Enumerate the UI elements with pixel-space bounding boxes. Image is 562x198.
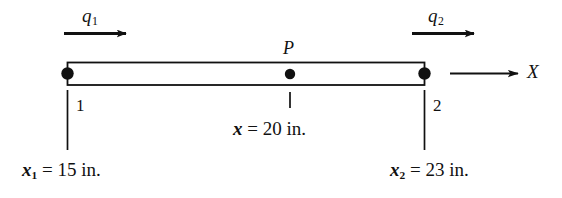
dimension-x2-equals: = — [410, 159, 421, 180]
node-1-dot — [61, 67, 73, 79]
dimension-x1-equals: = — [42, 159, 53, 180]
dimension-x1-label: x1 = 15 in. — [22, 160, 101, 182]
q2-label: q2 — [428, 6, 444, 28]
dimension-x2-unit: in. — [449, 159, 469, 180]
node-2-dot — [418, 67, 430, 79]
dimension-x1-value: 15 — [57, 159, 76, 180]
x-axis-label: X — [527, 62, 539, 81]
dimension-x2-value: 23 — [425, 159, 444, 180]
dimension-x-label: x = 20 in. — [233, 119, 306, 138]
dimension-x-unit: in. — [286, 118, 306, 139]
dimension-x-value: 20 — [263, 118, 282, 139]
q1-symbol: q — [82, 5, 92, 26]
node-2-label: 2 — [433, 97, 442, 114]
q2-symbol: q — [428, 5, 438, 26]
q2-subscript: 2 — [438, 15, 444, 28]
dimension-x2-label: x2 = 23 in. — [390, 160, 469, 182]
dimension-x1-unit: in. — [81, 159, 101, 180]
dimension-x-equals: = — [247, 118, 258, 139]
point-p-label: P — [283, 39, 294, 57]
dimension-x2-subscript: 2 — [400, 169, 406, 181]
dimension-x2-variable: x2 — [390, 159, 405, 180]
engineering-figure: q1 q2 P X 1 2 x = 20 in. x1 = 15 in. x2 … — [0, 0, 562, 198]
bar-element-outline — [68, 63, 425, 86]
q1-label: q1 — [82, 6, 98, 28]
q1-subscript: 1 — [92, 15, 98, 28]
node-1-label: 1 — [76, 97, 85, 114]
dimension-x-variable: x — [233, 118, 243, 139]
dimension-x1-variable: x1 — [22, 159, 37, 180]
dimension-x1-subscript: 1 — [32, 169, 38, 181]
point-p-dot — [285, 69, 295, 79]
